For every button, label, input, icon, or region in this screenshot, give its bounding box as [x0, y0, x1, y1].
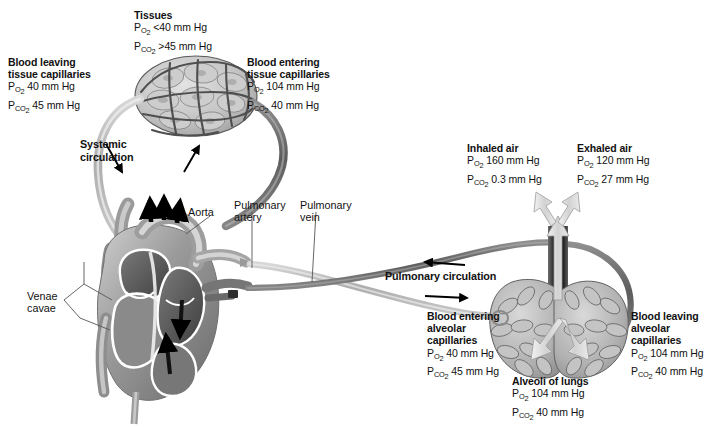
venae-cavae-line-2: cavae: [27, 302, 56, 314]
pulmonary-vein-line-1: Pulmonary: [300, 199, 352, 211]
heading-line-2: alveolar: [427, 322, 500, 334]
systemic-line-2: circulation: [80, 151, 134, 164]
tissues-pco2: PCO2 >45 mm Hg: [134, 40, 212, 58]
systemic-line-1: Systemic: [80, 138, 134, 151]
pulmonary-vein-line-2: vein: [300, 211, 320, 223]
pco2-value: PCO2 40 mm Hg: [247, 99, 330, 117]
label-inhaled-air: Inhaled air PO2 160 mm Hg PCO2 0.3 mm Hg: [467, 142, 542, 191]
pulmonary-artery-line-2: artery: [234, 211, 262, 223]
label-blood-leaving-alveolar-capillaries: Blood leaving alveolar capillaries PO2 1…: [631, 310, 704, 383]
pco2-value: PCO2 0.3 mm Hg: [467, 173, 542, 191]
pulmonary-artery-line-1: Pulmonary: [234, 199, 286, 211]
po2-value: PO2 40 mm Hg: [8, 80, 91, 98]
pco2-value: PCO2 27 mm Hg: [577, 173, 650, 191]
heading-line-1: Blood entering: [247, 56, 330, 68]
inhaled-air-heading: Inhaled air: [467, 142, 542, 154]
label-pulmonary-circulation: Pulmonary circulation: [385, 270, 496, 282]
heading-line-1: Blood leaving: [631, 310, 704, 322]
heading-line-3: capillaries: [427, 334, 500, 346]
label-venae-cavae: Venae cavae: [27, 290, 58, 315]
po2-value: PO2 104 mm Hg: [631, 347, 704, 365]
heading-line-2: tissue capillaries: [247, 68, 330, 80]
label-pulmonary-vein: Pulmonary vein: [300, 199, 352, 224]
pco2-value: PCO2 45 mm Hg: [8, 99, 91, 117]
tissue-capillary-bed: [135, 56, 257, 136]
heading-line-1: Blood entering: [427, 310, 500, 322]
pco2-value: PCO2 40 mm Hg: [512, 406, 589, 424]
label-exhaled-air: Exhaled air PO2 120 mm Hg PCO2 27 mm Hg: [577, 142, 650, 191]
po2-value: PO2 40 mm Hg: [427, 347, 500, 365]
po2-value: PO2 120 mm Hg: [577, 154, 650, 172]
label-blood-leaving-tissue-capillaries: Blood leaving tissue capillaries PO2 40 …: [8, 56, 91, 117]
po2-value: PO2 104 mm Hg: [247, 80, 330, 98]
venae-cavae-line-1: Venae: [27, 290, 58, 302]
diagram-canvas: Tissues PO2 <40 mm Hg PCO2 >45 mm Hg Blo…: [0, 0, 714, 427]
po2-value: PO2 160 mm Hg: [467, 154, 542, 172]
anatomical-illustration: [0, 0, 714, 427]
tissues-po2: PO2 <40 mm Hg: [134, 21, 212, 39]
pulmonary-circulation-text: Pulmonary circulation: [385, 270, 496, 282]
pco2-value: PCO2 40 mm Hg: [631, 365, 704, 383]
pco2-value: PCO2 45 mm Hg: [427, 365, 500, 383]
heading-line-2: tissue capillaries: [8, 68, 91, 80]
tissues-heading: Tissues: [134, 9, 212, 21]
label-systemic-circulation: Systemic circulation: [80, 138, 134, 163]
alveoli-heading: Alveoli of lungs: [512, 375, 589, 387]
exhaled-air-heading: Exhaled air: [577, 142, 650, 154]
po2-value: PO2 104 mm Hg: [512, 387, 589, 405]
label-blood-entering-tissue-capillaries: Blood entering tissue capillaries PO2 10…: [247, 56, 330, 117]
label-blood-entering-alveolar-capillaries: Blood entering alveolar capillaries PO2 …: [427, 310, 500, 383]
label-aorta: Aorta: [188, 206, 214, 218]
alveoli-of-lungs: [490, 192, 628, 380]
heading-line-1: Blood leaving: [8, 56, 91, 68]
label-pulmonary-artery: Pulmonary artery: [234, 199, 286, 224]
heading-line-2: alveolar: [631, 322, 704, 334]
label-alveoli-of-lungs: Alveoli of lungs PO2 104 mm Hg PCO2 40 m…: [512, 375, 589, 424]
heading-line-3: capillaries: [631, 334, 704, 346]
heart-illustration: [98, 198, 252, 424]
label-tissues: Tissues PO2 <40 mm Hg PCO2 >45 mm Hg: [134, 9, 212, 58]
